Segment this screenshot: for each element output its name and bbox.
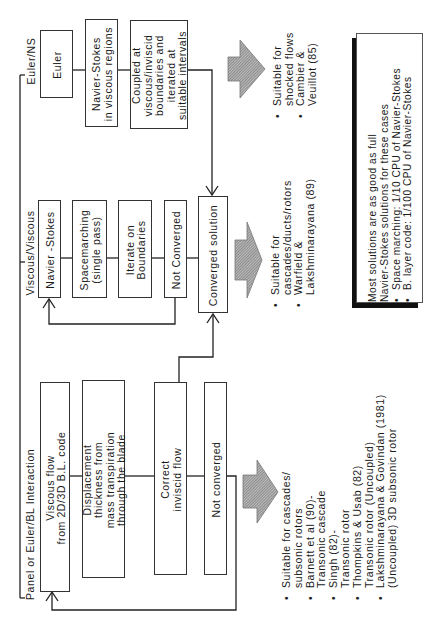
heading-viscous-viscous: Viscous/Viscous	[25, 201, 37, 305]
heading-text: Viscous/Viscous	[25, 210, 37, 295]
note-item: Lakshminarayana & Govindan (1981)(Uncoup…	[375, 394, 399, 600]
arrow-col3	[228, 40, 265, 98]
summary-box: Most solutions are as good as full Navie…	[356, 33, 423, 303]
notes-panel-euler-bl: Suitable for cascades/subsonic rotors Ba…	[281, 360, 403, 600]
step-text: Navier-Stokes	[91, 37, 103, 111]
summary-text: Most solutions are as good as full Navie…	[359, 36, 422, 302]
heading-euler-ns: Euler/NS	[26, 44, 38, 78]
notes-euler-ns: Suitable forshocked flows Cambier &Veuil…	[272, 18, 332, 118]
step-text: Euler	[52, 51, 64, 79]
summary-line: Most solutions are as good as full	[367, 134, 379, 302]
note-item: Warfield &Lakshminarayana (89)	[293, 179, 316, 307]
step-text: thickness from	[93, 442, 105, 518]
note-item: Singh (82)-Transonic rotor	[328, 394, 352, 600]
step-text: in viscous regions	[103, 27, 115, 121]
step-displacement: Displacement thickness from mass transpi…	[82, 380, 125, 578]
step-spacemarching: Spacemarching (single pass)	[72, 200, 107, 298]
step-coupled: Coupled at viscous/inviscid boundaries a…	[130, 20, 188, 129]
step-text: Not Converged	[171, 211, 183, 289]
note-item: Suitable for cascades/subsonic rotors	[281, 394, 305, 600]
step-not-converged-2: Not Converged	[164, 200, 187, 298]
summary-bullet: B. layer code: 1/100 CPU of Navier-Stoke…	[402, 68, 414, 302]
step-text: through the blade	[116, 434, 128, 526]
heading-text: Panel or Euler/BL Interaction	[25, 449, 37, 600]
step-text: Spacemarching	[79, 210, 91, 291]
note-item: Suitable forcascades/ducts/rotors	[270, 179, 293, 307]
step-text: inviscid flow	[172, 448, 184, 512]
note-item: Suitable forshocked flows	[272, 32, 295, 118]
step-text: Not converged	[211, 441, 223, 517]
step-viscous-flow: Viscous flow from 2D/3D B.L. code	[40, 382, 70, 592]
summary-line: Navier-Stokes solutions for these cases	[379, 104, 391, 302]
step-iterate-boundaries: Iterate on Boundaries	[118, 200, 152, 298]
note-item: Cambier &Veuillot (85)	[295, 32, 318, 118]
notes-viscous-viscous: Suitable forcascades/ducts/rotors Warfie…	[270, 177, 320, 307]
arrow-col1	[243, 460, 278, 523]
step-text: (single pass)	[91, 216, 103, 283]
step-text: Boundaries	[136, 220, 148, 279]
summary-bullet: Space marching: 1/10 CPU of Navier-Stoke…	[391, 68, 403, 302]
step-not-converged: Not converged	[204, 382, 227, 575]
step-text: from 2D/3D B.L. code	[56, 432, 68, 545]
step-text: suitable intervals	[177, 31, 189, 120]
step-euler: Euler	[40, 30, 73, 98]
arrow-col2	[235, 222, 262, 298]
heading-text: Euler/NS	[26, 38, 38, 85]
note-item: Barnett et al (90)-Transonic cascade	[305, 394, 329, 600]
step-text: Navier -Stokes	[45, 211, 57, 288]
step-correct-inviscid: Correct inviscid flow	[154, 382, 187, 575]
step-converged-solution: Converged solution	[198, 196, 228, 313]
heading-panel-euler-bl: Panel or Euler/BL Interaction	[25, 350, 37, 600]
step-ns-viscous-regions: Navier-Stokes in viscous regions	[85, 19, 118, 127]
step-text: Correct	[160, 460, 172, 499]
step-navier-stokes: Navier -Stokes	[38, 200, 61, 298]
step-text: Converged solution	[208, 205, 220, 306]
note-item: Thompkins & Usab (82)Transonic rotor (Un…	[352, 394, 376, 600]
